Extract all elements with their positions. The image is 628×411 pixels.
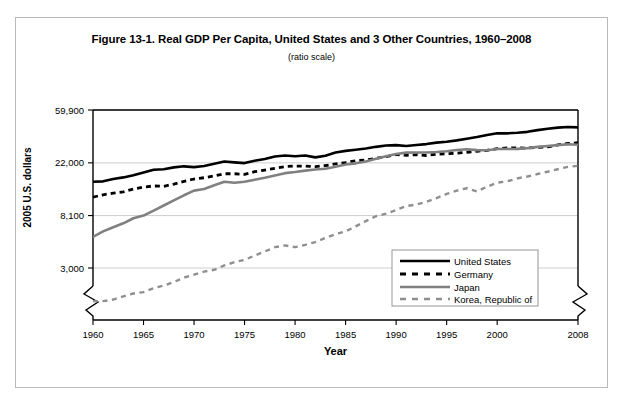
line-chart: 59,90022,0008,1003,000 19601965197019751… bbox=[0, 0, 628, 411]
svg-text:2000: 2000 bbox=[487, 329, 508, 340]
x-axis-ticks: 1960196519701975198019851990199520002008 bbox=[82, 320, 588, 340]
svg-text:2008: 2008 bbox=[567, 329, 588, 340]
y-axis-ticks: 59,90022,0008,1003,000 bbox=[55, 105, 93, 274]
svg-text:1985: 1985 bbox=[335, 329, 356, 340]
svg-text:1965: 1965 bbox=[133, 329, 154, 340]
series-line bbox=[93, 144, 578, 237]
legend-label: Korea, Republic of bbox=[454, 294, 533, 305]
legend-label: Germany bbox=[454, 269, 493, 280]
svg-text:8,100: 8,100 bbox=[60, 210, 84, 221]
svg-text:1960: 1960 bbox=[82, 329, 103, 340]
svg-text:3,000: 3,000 bbox=[60, 263, 84, 274]
svg-text:22,000: 22,000 bbox=[55, 157, 84, 168]
legend-label: United States bbox=[454, 256, 511, 267]
legend-label: Japan bbox=[454, 282, 480, 293]
chart-legend: United StatesGermanyJapanKorea, Republic… bbox=[392, 250, 538, 306]
svg-text:1970: 1970 bbox=[183, 329, 204, 340]
series-line bbox=[93, 127, 578, 182]
svg-text:1980: 1980 bbox=[285, 329, 306, 340]
svg-text:59,900: 59,900 bbox=[55, 105, 84, 116]
page-canvas: Figure 13-1. Real GDP Per Capita, United… bbox=[0, 0, 628, 411]
svg-text:1995: 1995 bbox=[436, 329, 457, 340]
svg-text:1990: 1990 bbox=[386, 329, 407, 340]
svg-text:1975: 1975 bbox=[234, 329, 255, 340]
